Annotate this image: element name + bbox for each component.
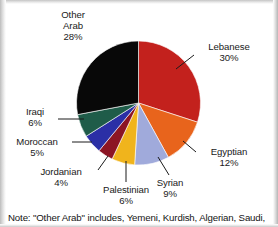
slice-label-lebanese: Lebanese 30% <box>196 41 262 63</box>
slice-label-egyptian: Egyptian 12% <box>196 146 262 168</box>
slice-label-lebanese-name: Lebanese <box>208 41 249 52</box>
slice-label-palestinian-name: Palestinian <box>103 184 149 195</box>
slice-label-iraqi: Iraqi 6% <box>12 106 58 128</box>
slice-label-palestinian: Palestinian 6% <box>88 184 164 206</box>
pie-slice-group <box>77 41 201 165</box>
slice-value-jordanian: 4% <box>26 177 96 188</box>
slice-label-iraqi-name: Iraqi <box>26 106 44 117</box>
slice-label-jordanian-name: Jordanian <box>40 166 81 177</box>
chart-note: Note: "Other Arab" includes, Yemeni, Kur… <box>8 212 278 224</box>
slice-value-lebanese: 30% <box>196 52 262 63</box>
slice-label-moroccan: Moroccan 5% <box>4 136 70 158</box>
slice-label-egyptian-name: Egyptian <box>211 146 248 157</box>
slice-label-other-arab-line2: Arab <box>63 20 83 31</box>
slice-value-iraqi: 6% <box>12 117 58 128</box>
pie-chart-figure: Other Arab 28% Lebanese 30% Egyptian 12%… <box>0 0 278 227</box>
slice-value-moroccan: 5% <box>4 147 70 158</box>
leader-line-jordanian <box>98 156 108 170</box>
leader-line-egyptian <box>183 141 196 152</box>
pie-slice-other-arab[interactable] <box>77 41 139 115</box>
slice-label-moroccan-name: Moroccan <box>16 136 57 147</box>
slice-value-palestinian: 6% <box>88 195 164 206</box>
slice-value-other-arab: 28% <box>46 31 100 42</box>
slice-label-jordanian: Jordanian 4% <box>26 166 96 188</box>
slice-label-other-arab: Other Arab 28% <box>46 9 100 42</box>
slice-value-egyptian: 12% <box>196 157 262 168</box>
slice-label-other-arab-line1: Other <box>61 9 85 20</box>
